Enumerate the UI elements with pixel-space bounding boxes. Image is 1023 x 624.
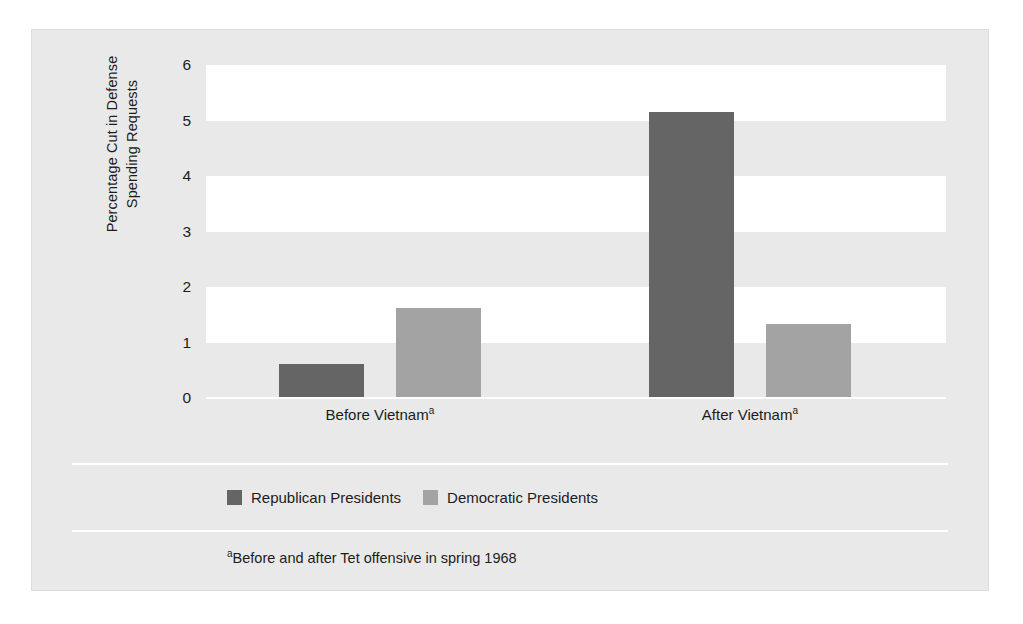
legend-rule-bottom	[72, 530, 948, 532]
x-axis-category-labels: Before VietnamaAfter Vietnama	[206, 406, 946, 432]
legend-rule-top	[72, 463, 948, 465]
figure-panel: Percentage Cut in Defense Spending Reque…	[31, 29, 989, 591]
grid-band	[206, 121, 946, 177]
y-axis-title: Percentage Cut in Defense Spending Reque…	[103, 0, 143, 304]
legend-entry: Republican Presidents	[227, 489, 401, 506]
grid-band	[206, 176, 946, 232]
grid-band	[206, 232, 946, 288]
y-axis-tick-label: 3	[151, 223, 191, 241]
x-axis-category-label: After Vietnama	[702, 406, 798, 423]
legend-label: Democratic Presidents	[447, 489, 598, 506]
bar-republican	[279, 364, 364, 398]
chart-footnote: aBefore and after Tet offensive in sprin…	[227, 550, 517, 566]
x-axis-category-label-text: After Vietnam	[702, 406, 793, 423]
x-axis-category-superscript: a	[792, 405, 798, 416]
legend-label: Republican Presidents	[251, 489, 401, 506]
legend-swatch-democratic	[423, 490, 438, 505]
x-axis-category-label-text: Before Vietnam	[326, 406, 429, 423]
x-axis-baseline	[206, 397, 946, 399]
y-axis-tick-label: 2	[151, 278, 191, 296]
grid-band	[206, 65, 946, 121]
y-axis-tick-label: 6	[151, 56, 191, 74]
legend-swatch-republican	[227, 490, 242, 505]
y-axis-tick-label: 4	[151, 167, 191, 185]
bar-democratic	[396, 308, 481, 398]
footnote-text: Before and after Tet offensive in spring…	[233, 550, 517, 566]
y-axis-tick-labels: 6543210	[151, 65, 191, 398]
bar-republican	[649, 112, 734, 398]
legend-entry: Democratic Presidents	[423, 489, 598, 506]
plot-area	[206, 65, 946, 398]
y-axis-tick-label: 1	[151, 334, 191, 352]
x-axis-category-superscript: a	[429, 405, 435, 416]
y-axis-tick-label: 5	[151, 112, 191, 130]
bar-democratic	[766, 324, 851, 398]
x-axis-category-label: Before Vietnama	[326, 406, 435, 423]
chart-legend: Republican PresidentsDemocratic Presiden…	[227, 485, 598, 509]
y-axis-title-line1: Percentage Cut in Defense	[103, 56, 123, 233]
y-axis-title-line2: Spending Requests	[123, 80, 143, 208]
y-axis-tick-label: 0	[151, 389, 191, 407]
